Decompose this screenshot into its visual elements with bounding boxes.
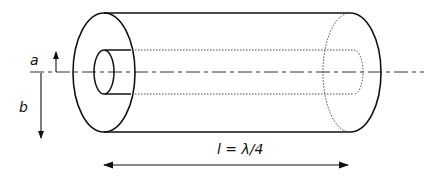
outer-front-face — [73, 13, 135, 132]
label-b: b — [19, 99, 28, 115]
label-a: a — [30, 52, 39, 68]
coax-diagram: a b l = λ/4 — [0, 0, 440, 179]
label-length: l = λ/4 — [217, 141, 263, 157]
